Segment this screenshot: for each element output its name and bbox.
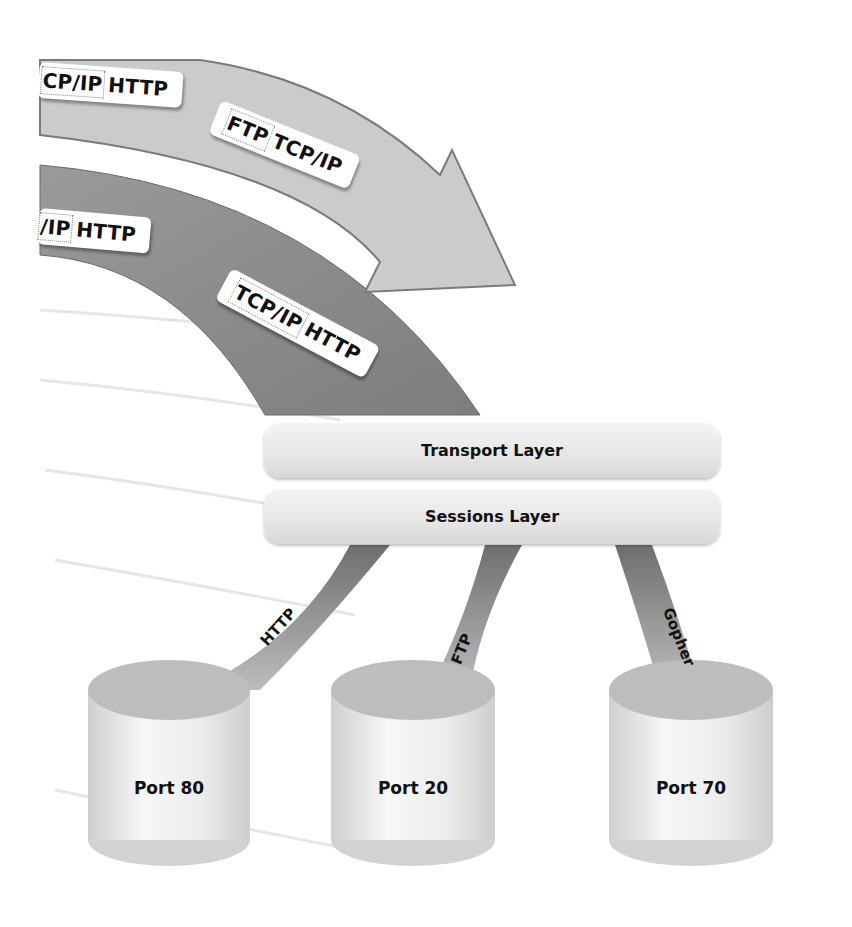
transport-layer: Transport Layer [264, 422, 720, 478]
cylinder-port-80 [88, 660, 250, 866]
port-label-80: Port 80 [84, 778, 254, 798]
port-label-70: Port 70 [606, 778, 776, 798]
layer-label: Sessions Layer [425, 507, 559, 526]
tag-protocol: /IP [39, 214, 71, 241]
port-label-20: Port 20 [328, 778, 498, 798]
tag-protocol: CP/IP [42, 68, 103, 96]
tag-protocol: HTTP [75, 217, 137, 246]
protocol-diagram: CP/IPHTTP FTPTCP/IP /IPHTTP TCP/IPHTTP T… [0, 0, 852, 927]
tag-protocol: HTTP [107, 73, 168, 101]
sessions-layer: Sessions Layer [264, 488, 720, 544]
cylinder-port-20 [331, 660, 495, 866]
layer-label: Transport Layer [421, 441, 563, 460]
cylinder-port-70 [609, 660, 773, 866]
